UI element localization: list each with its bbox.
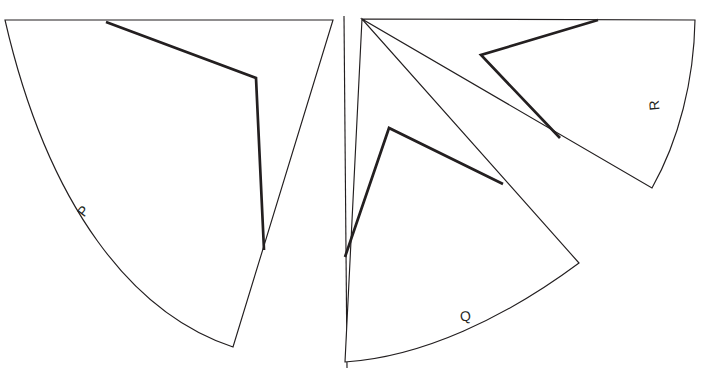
geometry-figure: P R Q [0, 0, 728, 371]
shape-sector-p: P [5, 20, 333, 347]
sector-p-outline [5, 20, 333, 347]
panel-divider [344, 16, 347, 368]
region-label-r: R [646, 100, 663, 111]
figure-canvas: P R Q [0, 0, 728, 371]
region-label-q: Q [459, 307, 472, 324]
